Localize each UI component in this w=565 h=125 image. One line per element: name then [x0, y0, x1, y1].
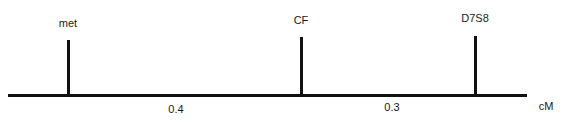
marker-tick-cf: [300, 37, 303, 96]
unit-label: cM: [539, 100, 554, 112]
marker-tick-met: [67, 40, 70, 96]
marker-tick-d7s8: [474, 36, 477, 96]
interval-distance-met-cf: 0.4: [168, 103, 183, 115]
marker-label-d7s8: D7S8: [461, 12, 489, 24]
marker-label-met: met: [59, 17, 77, 29]
interval-distance-cf-d7s8: 0.3: [384, 101, 399, 113]
marker-label-cf: CF: [294, 14, 309, 26]
chromosome-axis-line: [8, 94, 527, 97]
